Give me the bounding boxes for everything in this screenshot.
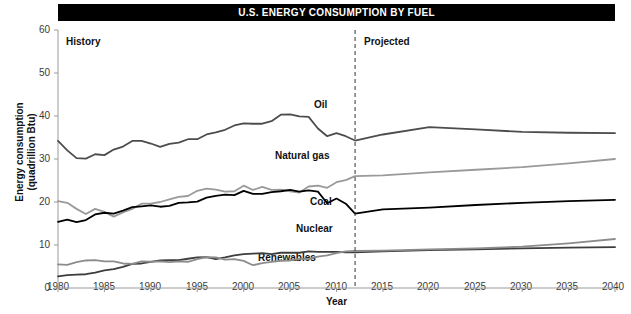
series-lines — [58, 114, 615, 276]
line-coal — [58, 190, 615, 222]
plot-area — [0, 0, 631, 314]
chart-figure: U.S. ENERGY CONSUMPTION BY FUEL Energy c… — [0, 0, 631, 314]
line-natural-gas — [58, 159, 615, 217]
line-oil — [58, 114, 615, 158]
